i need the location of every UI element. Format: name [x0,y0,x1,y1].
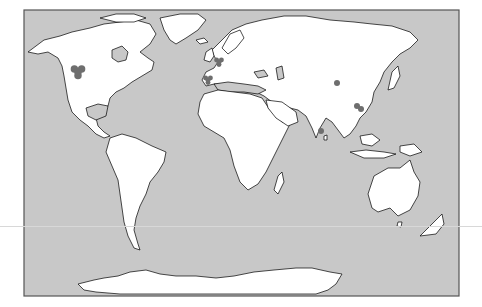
occurrence-marker [217,60,222,65]
world-map [0,0,482,307]
occurrence-marker [358,106,364,112]
occurrence-marker [334,80,340,86]
occurrence-marker [206,78,211,83]
scan-line-artifact [0,226,482,227]
occurrence-marker [74,68,81,75]
map-canvas [0,0,482,307]
occurrence-marker [318,128,324,134]
land-sri-lanka [324,135,327,140]
